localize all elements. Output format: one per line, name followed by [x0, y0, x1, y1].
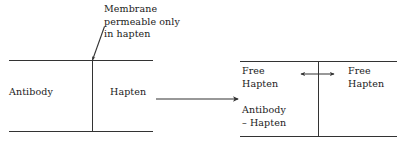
- figure-canvas: Membranepermeable onlyin hapten Antibody…: [0, 0, 397, 150]
- arrow-overlay: [0, 0, 397, 150]
- membrane-pointer-arrow: [93, 27, 105, 61]
